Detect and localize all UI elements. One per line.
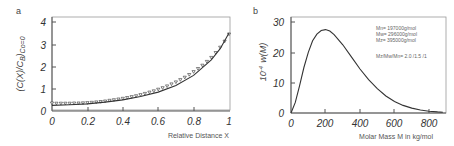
y-tick-label: 0 (40, 106, 46, 117)
x-tick-label: 0.6 (151, 116, 165, 127)
ylabel-pre: 10 (258, 71, 268, 81)
y-tick-label: 4 (40, 17, 46, 28)
y-tick-label: 10 (273, 78, 285, 89)
panel-b: b 10-4w(M) 30 20 10 0 0 200 400 600 (253, 6, 446, 141)
panel-b-legend: Mn= 197000g/mol Mw= 296000g/mol Mz= 3950… (376, 25, 427, 59)
ylabel-main: w(M) (258, 43, 268, 63)
ylabel-main: (C(X)/C (15, 61, 25, 92)
panel-b-x-ticks: 0 200 400 600 800 (288, 109, 438, 129)
ylabel-exp: -4 (258, 65, 264, 71)
panel-b-x-axis-title: Molar Mass M in kg/mol (359, 133, 433, 141)
x-tick-label: 400 (352, 118, 369, 129)
x-tick-label: 0 (49, 116, 55, 127)
svg-text:(C(X)/CB)Co=0: (C(X)/CB)Co=0 (15, 36, 26, 91)
x-tick-label: 1 (226, 116, 232, 127)
panel-a: a (C(X)/CB)Co=0 4 3 2 1 0 (15, 6, 232, 139)
ylabel-sub2: Co=0 (19, 36, 26, 53)
panel-a-data-markers (50, 33, 230, 105)
svg-text:10-4w(M): 10-4w(M) (258, 43, 268, 81)
x-tick-label: 0.2 (81, 116, 95, 127)
x-tick-label: 0.8 (187, 116, 201, 127)
x-tick-label: 0.4 (116, 116, 130, 127)
panel-a-label: a (16, 6, 21, 16)
x-tick-label: 200 (316, 118, 334, 129)
y-tick-label: 20 (272, 48, 285, 59)
x-tick-label: 0 (288, 118, 294, 129)
panel-a-y-axis-title: (C(X)/CB)Co=0 (15, 36, 26, 91)
y-tick-label: 3 (40, 40, 46, 51)
x-tick-label: 600 (386, 118, 403, 129)
panel-a-x-axis-title: Relative Distance X (168, 132, 229, 139)
panel-b-plot-frame (291, 17, 446, 113)
y-tick-label: 30 (273, 17, 285, 28)
figure: a (C(X)/CB)Co=0 4 3 2 1 0 (0, 0, 454, 146)
panel-b-y-ticks: 30 20 10 0 (272, 17, 295, 119)
legend-ratio: Mz/Mw/Mn= 2.0 /1.5 /1 (376, 53, 427, 59)
y-tick-label: 2 (39, 62, 46, 73)
y-tick-label: 1 (40, 84, 46, 95)
x-tick-label: 800 (421, 118, 438, 129)
panel-b-label: b (253, 6, 258, 16)
y-tick-label: 0 (278, 108, 284, 119)
legend-mz: Mz= 395000g/mol (376, 37, 416, 43)
panel-b-y-axis-title: 10-4w(M) (258, 43, 268, 81)
panel-b-distribution-curve (291, 30, 443, 113)
